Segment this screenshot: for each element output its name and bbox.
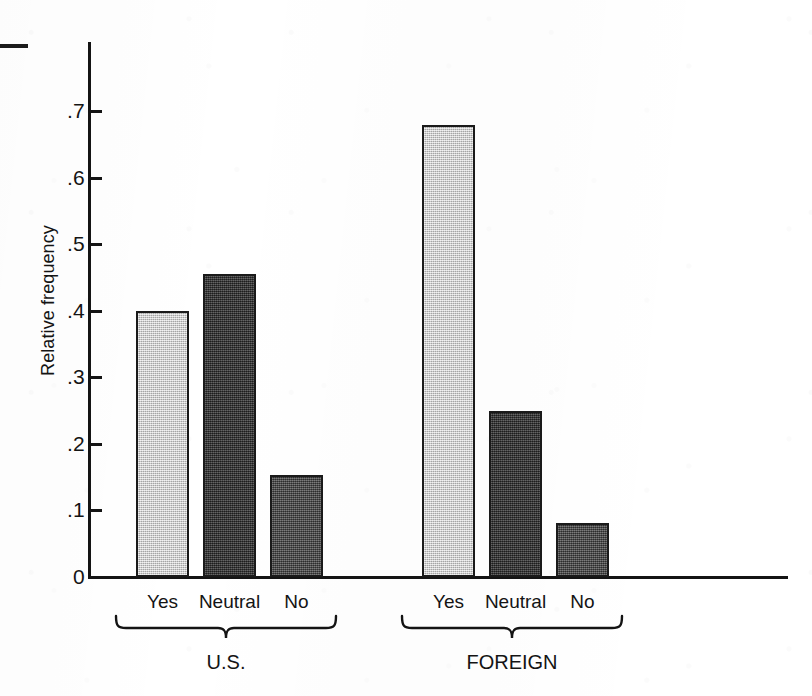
y-tick-0 — [91, 576, 102, 579]
bar-foreign-no — [556, 523, 609, 578]
y-tick-0.6 — [91, 177, 102, 180]
group-label-us: U.S. — [146, 652, 306, 672]
stray-dash-mark — [0, 44, 28, 48]
category-label-us-no: No — [260, 592, 333, 611]
y-tick-0.5 — [91, 243, 102, 246]
bar-us-yes — [136, 311, 189, 578]
y-tick-label-0.3: .3 — [51, 366, 85, 387]
y-tick-0.4 — [91, 310, 102, 313]
group-label-foreign: FOREIGN — [432, 652, 592, 672]
y-tick-0.1 — [91, 509, 102, 512]
y-tick-label-0.1: .1 — [51, 499, 85, 520]
group-brace-us — [112, 614, 340, 648]
bar-foreign-yes — [422, 125, 475, 577]
group-brace-foreign — [398, 614, 626, 648]
bar-us-neutral — [203, 274, 256, 578]
y-tick-0.3 — [91, 376, 102, 379]
y-tick-label-0.7: .7 — [51, 100, 85, 121]
y-tick-0.7 — [91, 110, 102, 113]
y-tick-label-0.6: .6 — [51, 167, 85, 188]
y-tick-label-0.2: .2 — [51, 433, 85, 454]
y-tick-0.2 — [91, 443, 102, 446]
y-tick-label-0.5: .5 — [51, 233, 85, 254]
y-tick-label-0: 0 — [51, 566, 85, 587]
bar-us-no — [270, 475, 323, 577]
bar-chart: Relative frequency 0 .1 .2 .3 .4 .5 .6 .… — [0, 0, 812, 696]
bar-foreign-neutral — [489, 411, 542, 577]
category-label-foreign-no: No — [546, 592, 619, 611]
y-tick-label-0.4: .4 — [51, 300, 85, 321]
